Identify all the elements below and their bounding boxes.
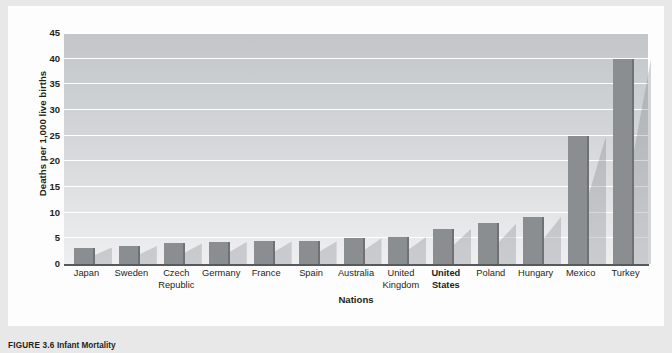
- bar-group: [254, 33, 292, 264]
- x-tick-label-line: Sweden: [109, 268, 154, 280]
- x-tick-label-line: France: [244, 268, 289, 280]
- x-tick-label: Japan: [64, 268, 109, 280]
- bar-group: [523, 33, 561, 264]
- x-tick-label: UnitedStates: [423, 268, 468, 291]
- plot-area: [64, 33, 648, 264]
- y-tick-label: 0: [14, 259, 60, 269]
- bar: [119, 246, 140, 264]
- figure-panel: 051015202530354045 Deaths per 1,000 live…: [8, 6, 664, 326]
- x-tick-label-line: Mexico: [558, 268, 603, 280]
- figure-caption-title: Infant Mortality: [57, 341, 116, 350]
- x-tick-label: Turkey: [603, 268, 648, 280]
- x-tick-label: UnitedKingdom: [378, 268, 423, 291]
- bar: [523, 217, 544, 264]
- y-axis-title: Deaths per 1,000 live births: [37, 54, 48, 214]
- x-tick-label-line: Australia: [334, 268, 379, 280]
- bar-group: [478, 33, 516, 264]
- bar-group: [209, 33, 247, 264]
- x-axis-line: [64, 264, 649, 266]
- x-tick-label: Mexico: [558, 268, 603, 280]
- x-tick-label-line: Republic: [154, 280, 199, 292]
- bar-group: [568, 33, 606, 264]
- x-tick-label: CzechRepublic: [154, 268, 199, 291]
- x-tick-label: Hungary: [513, 268, 558, 280]
- figure-caption: FIGURE 3.6 Infant Mortality: [8, 341, 116, 353]
- x-tick-label: Spain: [289, 268, 334, 280]
- bar: [164, 243, 185, 264]
- x-tick-label-line: Turkey: [603, 268, 648, 280]
- y-tick-label: 45: [14, 28, 60, 38]
- x-tick-label-line: Germany: [199, 268, 244, 280]
- figure-root: 051015202530354045 Deaths per 1,000 live…: [0, 0, 672, 353]
- x-tick-label-line: United: [423, 268, 468, 280]
- x-axis-title: Nations: [64, 294, 648, 305]
- bar: [388, 237, 409, 264]
- x-tick-label-line: Czech: [154, 268, 199, 280]
- bar: [478, 223, 499, 264]
- bar: [344, 238, 365, 264]
- x-tick-label-line: Japan: [64, 268, 109, 280]
- bar: [613, 59, 634, 264]
- y-axis-ticks: 051015202530354045: [8, 33, 60, 264]
- x-tick-label: Australia: [334, 268, 379, 280]
- y-tick-label: 5: [14, 234, 60, 244]
- bar-group: [388, 33, 426, 264]
- x-tick-label-line: Hungary: [513, 268, 558, 280]
- x-tick-label: Poland: [468, 268, 513, 280]
- x-tick-label-line: Spain: [289, 268, 334, 280]
- bar: [209, 242, 230, 264]
- x-tick-label: France: [244, 268, 289, 280]
- x-tick-label: Germany: [199, 268, 244, 280]
- bar: [254, 241, 275, 264]
- bar-group: [613, 33, 651, 264]
- x-tick-label-line: United: [378, 268, 423, 280]
- bar: [74, 248, 95, 264]
- bar-group: [164, 33, 202, 264]
- plot-top-border: [64, 33, 648, 34]
- bar-group: [299, 33, 337, 264]
- bar-group: [433, 33, 471, 264]
- bar: [433, 229, 454, 264]
- bar: [299, 241, 320, 264]
- figure-caption-number: FIGURE 3.6: [8, 341, 55, 350]
- x-tick-label-line: Poland: [468, 268, 513, 280]
- x-tick-label-line: Kingdom: [378, 280, 423, 292]
- bar-group: [119, 33, 157, 264]
- x-tick-label-line: States: [423, 280, 468, 292]
- bar-group: [74, 33, 112, 264]
- bar: [568, 136, 589, 264]
- x-tick-label: Sweden: [109, 268, 154, 280]
- bar-group: [344, 33, 382, 264]
